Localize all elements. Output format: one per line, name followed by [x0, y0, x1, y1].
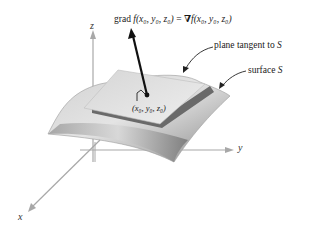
x-axis	[28, 140, 100, 212]
point-label: (x₀, y₀, z₀)	[132, 104, 166, 113]
diagram-canvas	[0, 0, 318, 234]
gradient-prefix: grad	[114, 14, 133, 24]
surface-symbol: S	[278, 65, 283, 75]
z-axis-arrowhead-icon	[90, 30, 96, 39]
surface-text: surface	[248, 65, 278, 75]
gradient-formula: grad f(x₀, y₀, z₀) = ∇f(x₀, y₀, z₀)	[114, 15, 232, 25]
gradient-equals: =	[174, 14, 184, 24]
point-dot	[145, 93, 150, 98]
x-axis-label: x	[18, 212, 22, 222]
gradient-rhs: f(x₀, y₀, z₀)	[191, 14, 232, 24]
z-axis-label: z	[90, 21, 94, 31]
tangent-plane-symbol: S	[277, 40, 282, 50]
nabla-icon: ∇	[184, 14, 191, 24]
tangent-plane-label: plane tangent to S	[214, 41, 282, 51]
y-axis-label: y	[238, 143, 242, 153]
y-axis-arrowhead-icon	[225, 147, 234, 153]
surface-label: surface S	[248, 66, 283, 76]
gradient-lhs: f(x₀, y₀, z₀)	[133, 14, 174, 24]
surface-callout-arrow	[223, 71, 246, 85]
tangent-plane-text: plane tangent to	[214, 40, 277, 50]
gradient-arrowhead-icon	[128, 28, 136, 39]
tangent-plane-callout-arrow	[186, 47, 213, 68]
